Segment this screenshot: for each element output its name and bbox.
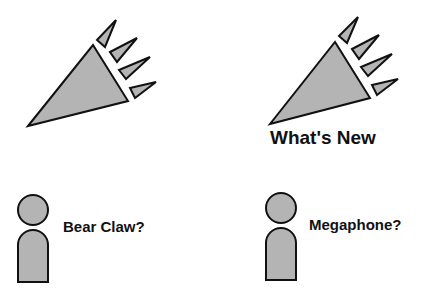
person-icon-right [266,193,296,280]
person-icon-left [18,195,48,282]
whats-new-caption: What's New [270,127,376,149]
megaphone-icon-right [270,17,398,124]
megaphone-icon-left [28,20,156,126]
bear-claw-label: Bear Claw? [63,218,145,235]
megaphone-label: Megaphone? [309,216,402,233]
